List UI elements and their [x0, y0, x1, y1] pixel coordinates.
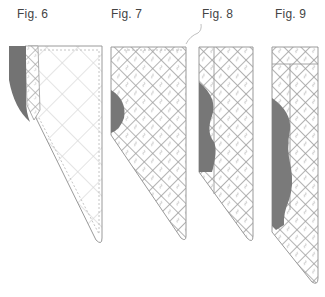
figure-9-panel	[272, 47, 318, 283]
figure-8-panel	[199, 47, 253, 241]
quilt-figures-illustration	[0, 0, 325, 297]
figure-7-panel	[111, 24, 201, 240]
figure-6-panel	[9, 46, 102, 243]
